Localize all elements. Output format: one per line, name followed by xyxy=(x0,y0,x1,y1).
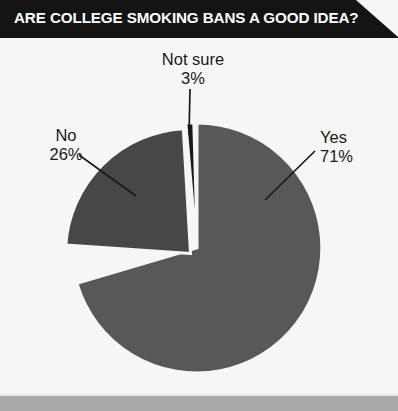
pie-label-not-sure-name: Not sure xyxy=(150,50,236,69)
chart-area: Not sure 3% No 26% Yes 71% xyxy=(0,38,398,396)
page-title: ARE COLLEGE SMOKING BANS A GOOD IDEA? xyxy=(14,9,359,26)
infographic-pie-chart-page: ARE COLLEGE SMOKING BANS A GOOD IDEA? No… xyxy=(0,0,398,411)
pie-label-no-value: 26% xyxy=(36,145,96,164)
pie-label-yes: Yes 71% xyxy=(320,128,390,166)
pie-chart-svg xyxy=(0,38,398,396)
pie-label-no-name: No xyxy=(36,126,96,145)
pie-label-not-sure-value: 3% xyxy=(150,69,236,88)
pie-label-not-sure: Not sure 3% xyxy=(150,50,236,88)
footer-band xyxy=(0,396,398,411)
leader-line-not-sure xyxy=(189,89,190,135)
pie-label-yes-name: Yes xyxy=(320,128,390,147)
pie-label-no: No 26% xyxy=(36,126,96,164)
pie-label-yes-value: 71% xyxy=(320,147,390,166)
